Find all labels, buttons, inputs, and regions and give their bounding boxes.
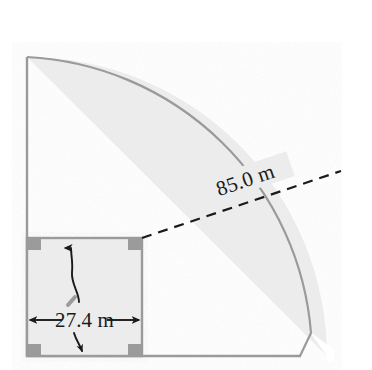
geometry-figure: 85.0 m 85.0 m 27.4 m 85.0 m bbox=[0, 0, 372, 370]
square-building bbox=[27, 238, 142, 356]
figure-canvas: 85.0 m 85.0 m 27.4 m bbox=[0, 0, 372, 370]
side-label: 27.4 m bbox=[55, 308, 114, 332]
corner-marker-top-right bbox=[128, 239, 141, 250]
corner-marker-bottom-left bbox=[28, 344, 41, 355]
corner-marker-bottom-right bbox=[128, 344, 141, 355]
corner-marker-top-left bbox=[28, 239, 41, 250]
